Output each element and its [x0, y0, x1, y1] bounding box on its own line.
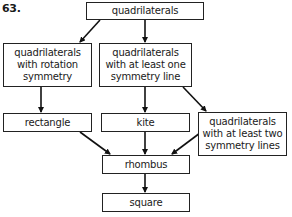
node-two-symmetry-lines: quadrilaterals with at least two symmetr… [198, 112, 287, 156]
node-label-line: symmetry [14, 71, 80, 83]
arrow-quadrilaterals-to-rotation [80, 20, 100, 42]
problem-number: 63. [2, 2, 21, 15]
arrow-one-line-to-two-lines [183, 87, 206, 111]
node-quadrilaterals: quadrilaterals [86, 2, 204, 20]
node-label: kite [137, 117, 155, 129]
node-label: rhombus [125, 159, 168, 171]
node-square: square [102, 193, 190, 212]
node-label-line: symmetry lines [203, 140, 283, 152]
node-label-line: quadrilaterals [105, 47, 185, 59]
node-rectangle: rectangle [3, 113, 92, 132]
arrow-two-lines-to-rhombus [172, 133, 200, 154]
node-label-line: with at least two [203, 128, 283, 140]
node-label: quadrilaterals [112, 5, 178, 17]
node-label: rectangle [25, 117, 70, 129]
node-label-line: symmetry line [105, 71, 185, 83]
node-label: square [130, 197, 163, 209]
node-label-line: with rotation [14, 59, 80, 71]
node-label-line: quadrilaterals [14, 47, 80, 59]
node-rhombus: rhombus [102, 155, 190, 174]
node-label-line: quadrilaterals [203, 116, 283, 128]
arrows-layer [0, 0, 292, 217]
node-rotation-symmetry: quadrilaterals with rotation symmetry [3, 43, 92, 87]
node-one-symmetry-line: quadrilaterals with at least one symmetr… [99, 43, 192, 87]
node-label-line: with at least one [105, 59, 185, 71]
node-kite: kite [101, 113, 190, 132]
arrow-rectangle-to-rhombus [80, 132, 110, 154]
